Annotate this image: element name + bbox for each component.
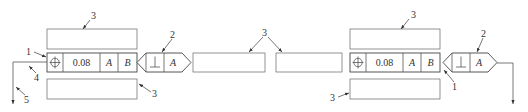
callout-2: 2 <box>481 28 486 39</box>
empty-box-top-left <box>47 29 137 49</box>
left-control-frame: 0.08 A B <box>47 53 137 72</box>
tolerance-value: 0.08 <box>376 57 394 68</box>
left-secondary-frame: A <box>137 53 191 72</box>
tolerance-frame-diagram: 0.08 A B A 0.08 A B <box>0 0 528 112</box>
callout-3: 3 <box>330 92 335 103</box>
right-control-frame: 0.08 A B <box>350 53 440 72</box>
empty-box-top-right <box>350 29 440 49</box>
callout-1: 1 <box>452 81 457 92</box>
empty-box-middle-right <box>276 53 342 72</box>
datum-a: A <box>169 57 177 68</box>
callout-5: 5 <box>24 94 29 105</box>
leader-line-left <box>13 62 47 104</box>
leader-line-right <box>497 63 513 104</box>
datum-a: A <box>105 57 113 68</box>
callout-3: 3 <box>91 10 96 21</box>
empty-box-middle-left <box>193 53 265 72</box>
empty-box-bottom-right <box>350 79 440 99</box>
callout-3: 3 <box>411 9 416 20</box>
callout-2: 2 <box>170 29 175 40</box>
datum-a: A <box>475 57 483 68</box>
empty-box-bottom-left <box>47 79 137 99</box>
datum-b: B <box>124 57 130 68</box>
datum-b: B <box>427 57 433 68</box>
datum-a: A <box>408 57 416 68</box>
right-secondary-frame: A <box>443 53 497 72</box>
tolerance-value: 0.08 <box>73 57 91 68</box>
callout-3: 3 <box>262 27 267 38</box>
callout-1: 1 <box>26 46 31 57</box>
callout-3: 3 <box>152 88 157 99</box>
callout-4: 4 <box>34 72 39 83</box>
